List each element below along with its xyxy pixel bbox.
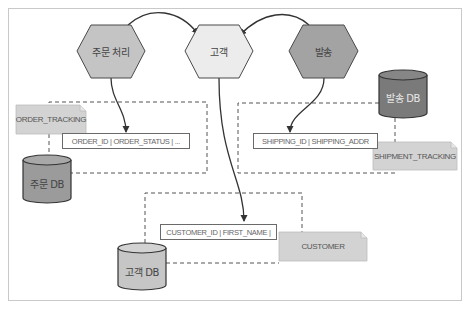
order-db-label: 주문 DB (23, 176, 71, 191)
customer-table-name: CUSTOMER (279, 232, 367, 261)
shipping-db-label: 발송 DB (379, 90, 427, 105)
shipment-tracking-table-name: SHIPMENT_TRACKING (373, 142, 457, 170)
arrow-shipping-to-shipping-table (290, 78, 324, 132)
service-customer-label: 고객 (185, 44, 253, 59)
customer-db-label: 고객 DB (118, 264, 166, 279)
customer-table-columns: CUSTOMER_ID | FIRST_NAME | (160, 224, 277, 240)
service-order-label: 주문 처리 (77, 44, 145, 59)
order-tracking-table-name: ORDER_TRACKING (16, 105, 86, 134)
arrow-customer-to-customer-table (219, 78, 244, 221)
shipping-table-columns: SHIPPING_ID | SHIPPING_ADDR (253, 133, 378, 149)
arrow-order-to-order-table (111, 78, 126, 132)
arrow-order-to-customer (128, 13, 198, 34)
arrow-shipping-to-customer (240, 15, 309, 35)
service-shipping-label: 발송 (289, 44, 358, 59)
order-table-columns: ORDER_ID | ORDER_STATUS | ... (62, 133, 190, 149)
